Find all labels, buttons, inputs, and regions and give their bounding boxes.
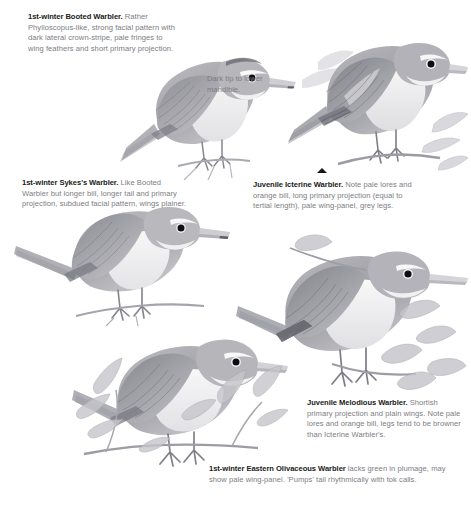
bird-illustration-icterine-warbler [288, 18, 468, 183]
caption-melodious-warbler: Juvenile Melodious Warbler. Shortish pri… [307, 398, 465, 440]
caption-lead-sykes: 1st-winter Sykes's Warbler. [22, 178, 118, 187]
caption-booted-warbler: 1st-winter Booted Warbler. Rather Phyllo… [28, 12, 180, 54]
bird-illustration-sykes-warbler [14, 196, 230, 326]
caption-lead-icterine: Juvenile Icterine Warbler. [253, 180, 343, 189]
field-guide-plate: 1st-winter Booted Warbler. Rather Phyllo… [0, 0, 471, 526]
caption-eastern-olivaceous-warbler: 1st-winter Eastern Olivaceous Warbler la… [209, 464, 463, 485]
icterine-pointer-triangle-icon [317, 168, 327, 173]
caption-lead-olivaceous: 1st-winter Eastern Olivaceous Warbler [209, 464, 346, 473]
bird-illustration-eastern-olivaceous-warbler [72, 326, 288, 472]
caption-lead-melodious: Juvenile Melodious Warbler. [307, 398, 408, 407]
caption-body-mandible: Dark tip to lower mandible. [207, 74, 263, 94]
caption-lead-booted: 1st-winter Booted Warbler. [28, 12, 123, 21]
caption-dark-tip-lower-mandible: Dark tip to lower mandible. [207, 74, 297, 95]
caption-sykes-warbler: 1st-winter Sykes's Warbler. Like Booted … [22, 178, 188, 210]
caption-icterine-warbler: Juvenile Icterine Warbler. Note pale lor… [253, 180, 413, 212]
